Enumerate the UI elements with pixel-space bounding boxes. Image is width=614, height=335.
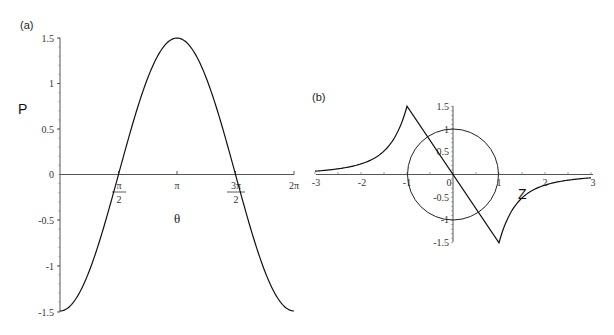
x-tick-3pi-half-den: 2	[234, 194, 239, 205]
panel-a-x-title: θ	[174, 211, 180, 226]
y-tick-label: 1.5	[42, 33, 55, 44]
x-tick-2pi: 2π	[289, 180, 299, 191]
y-tick-label: 0	[49, 169, 54, 180]
y-tick-label: -0.5	[433, 192, 449, 203]
panel-a-x-ticks	[119, 171, 295, 175]
figure: (a) P 1.5 1 0.5 0 -0.5 -1 -1.5	[0, 0, 614, 335]
panel-b: (b) -3 -2 -1 0 1 2 3 1.5 1 0.5 -0.5 -1 -…	[312, 91, 596, 248]
panel-b-x-title: Z	[518, 186, 527, 202]
x-tick-pi: π	[174, 180, 179, 191]
y-tick-label: -1.5	[433, 237, 449, 248]
x-tick-label: 3	[591, 177, 596, 188]
panel-a-y-title: P	[18, 101, 27, 117]
panel-b-label: (b)	[312, 91, 325, 103]
x-tick-pi-half-den: 2	[117, 194, 122, 205]
y-tick-label: 1	[49, 78, 54, 89]
y-tick-label: 0.5	[437, 146, 450, 157]
y-tick-label: -1	[46, 261, 54, 272]
y-tick-label: -1.5	[38, 307, 54, 318]
y-tick-label: 1.5	[437, 101, 450, 112]
y-tick-label: -0.5	[38, 215, 54, 226]
x-tick-label: -1	[403, 177, 411, 188]
x-tick-label: 2	[543, 177, 548, 188]
y-tick-label: 0.5	[42, 124, 55, 135]
panel-a-label: (a)	[20, 19, 33, 31]
panel-a-y-tick-labels: 1.5 1 0.5 0 -0.5 -1 -1.5	[38, 33, 54, 318]
x-tick-label: 0	[447, 177, 452, 188]
panel-a: (a) P 1.5 1 0.5 0 -0.5 -1 -1.5	[18, 19, 299, 318]
x-tick-label: -2	[358, 177, 366, 188]
panel-a-x-tick-labels: π 2 π 3π 2 2π	[112, 180, 299, 205]
x-tick-label: -3	[312, 177, 320, 188]
x-tick-pi-half-num: π	[116, 180, 121, 191]
